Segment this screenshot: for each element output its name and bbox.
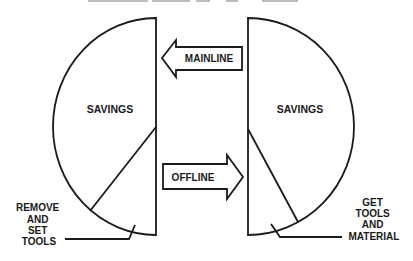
left-slice-label-line-4: TOOLS (22, 236, 57, 247)
setup-reduction-diagram: SAVINGS REMOVE AND SET TOOLS SAVINGS GET… (0, 0, 413, 261)
offline-label: OFFLINE (172, 172, 215, 183)
mainline-label: MAINLINE (185, 53, 234, 64)
left-slice-label-line-3: SET (28, 225, 47, 236)
left-slice-label-line-2: AND (27, 214, 49, 225)
mainline-arrow: MAINLINE (162, 40, 242, 77)
right-slice-label-line-2: TOOLS (355, 208, 390, 219)
clipped-title (88, 0, 298, 2)
right-savings-label: SAVINGS (277, 103, 323, 115)
right-slice-label-line-1: GET (362, 197, 383, 208)
right-half-pie-outline (248, 18, 354, 235)
left-half-pie-outline (53, 18, 156, 235)
offline-arrow: OFFLINE (163, 155, 243, 199)
right-slice-label: GET TOOLS AND MATERIAL (349, 197, 400, 242)
right-half-pie: SAVINGS GET TOOLS AND MATERIAL (248, 18, 399, 242)
left-half-pie: SAVINGS REMOVE AND SET TOOLS (16, 18, 156, 247)
left-slice-label-line-1: REMOVE (16, 202, 60, 213)
right-slice-label-line-3: AND (362, 219, 384, 230)
right-slice-label-line-4: MATERIAL (349, 231, 400, 242)
left-slice-label: REMOVE AND SET TOOLS (16, 202, 62, 247)
left-savings-label: SAVINGS (87, 103, 133, 115)
